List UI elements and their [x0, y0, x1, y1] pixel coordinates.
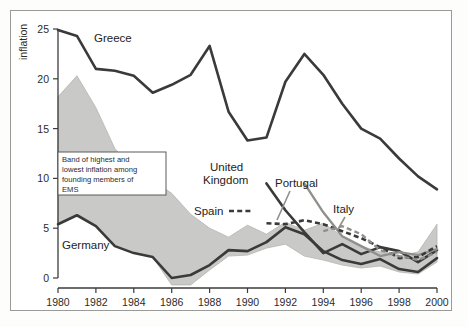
series-label-united-kingdom-line2: Kingdom [203, 174, 248, 186]
x-tick-label: 1986 [160, 296, 184, 308]
x-tick-label: 1980 [46, 296, 70, 308]
series-label-italy: Italy [333, 203, 354, 215]
y-axis-title: inflation [17, 24, 29, 60]
band-annotation: Band of highest and lowest inflation amo… [58, 152, 166, 195]
leader-line-portugal [277, 191, 290, 220]
x-tick-label: 1984 [122, 296, 146, 308]
x-tick-label: 2000 [425, 296, 449, 308]
x-axis-ticks: 1980198219841986198819901992199419961998… [46, 288, 449, 308]
x-tick-label: 1982 [84, 296, 108, 308]
y-tick-label: 5 [43, 222, 49, 234]
x-tick-label: 1998 [387, 296, 411, 308]
y-tick-label: 25 [37, 23, 49, 35]
series-label-greece: Greece [94, 32, 132, 44]
band-annotation-line-2: lowest inflation among [62, 165, 137, 174]
series-label-spain: Spain [194, 205, 223, 217]
band-annotation-line-4: EMS [62, 185, 78, 194]
series-label-germany: Germany [62, 239, 110, 251]
band-annotation-line-1: Band of highest and [62, 155, 130, 164]
x-tick-label: 1990 [236, 296, 260, 308]
band-annotation-line-3: founding members of [62, 175, 134, 184]
y-tick-label: 20 [37, 73, 49, 85]
chart-figure: 0510152025 19801982198419861988199019921… [0, 0, 468, 327]
series-label-portugal: Portugal [275, 177, 318, 189]
y-tick-label: 10 [37, 172, 49, 184]
y-tick-label: 15 [37, 123, 49, 135]
x-tick-label: 1996 [350, 296, 374, 308]
x-tick-label: 1992 [274, 296, 298, 308]
series-label-united-kingdom-line1: United [210, 161, 243, 173]
x-tick-label: 1988 [198, 296, 222, 308]
y-axis-ticks: 0510152025 [37, 23, 58, 284]
x-tick-label: 1994 [312, 296, 336, 308]
inflation-line-chart: 0510152025 19801982198419861988199019921… [0, 0, 468, 327]
y-tick-label: 0 [43, 272, 49, 284]
leader-line-italy [337, 217, 345, 231]
